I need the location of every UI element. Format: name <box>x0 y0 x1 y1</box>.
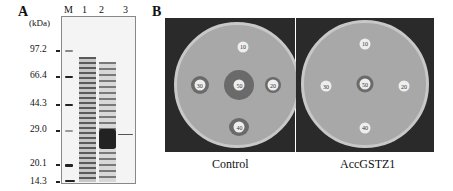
arrow-icon <box>56 164 60 166</box>
arrow-icon <box>56 181 60 183</box>
disc-50: 50 <box>360 79 371 90</box>
petri-dish-accgstz1: 10 30 50 20 40 <box>301 20 429 148</box>
arrow-icon <box>56 76 60 78</box>
disc-50: 50 <box>234 80 245 91</box>
arrow-icon <box>56 130 60 132</box>
disc-20: 20 <box>268 80 279 91</box>
lane-label-2: 2 <box>99 4 104 15</box>
marker-14: 14.3 <box>30 176 47 186</box>
lane-label-m: M <box>64 4 73 15</box>
marker-20: 20.1 <box>30 158 47 168</box>
disc-20: 20 <box>399 81 410 92</box>
sds-page-gel <box>61 16 136 184</box>
disc-10: 10 <box>360 38 371 49</box>
disc-30: 30 <box>194 80 205 91</box>
disc-30: 30 <box>320 81 331 92</box>
lane-label-3: 3 <box>123 4 128 15</box>
marker-44: 44.3 <box>30 98 47 108</box>
marker-97: 97.2 <box>30 44 47 54</box>
arrow-icon <box>56 50 60 52</box>
petri-dish-control: 10 30 50 20 40 <box>174 22 300 148</box>
disc-10: 10 <box>238 41 249 52</box>
arrow-icon <box>56 104 60 106</box>
marker-66: 66.4 <box>30 70 47 80</box>
caption-control: Control <box>212 157 249 172</box>
control-plate-photo: 10 30 50 20 40 <box>165 18 295 152</box>
lane-label-1: 1 <box>82 4 87 15</box>
kda-unit-label: (kDa) <box>29 18 50 28</box>
disc-40: 40 <box>234 122 245 133</box>
accgstz1-plate-photo: 10 30 50 20 40 <box>296 18 434 152</box>
disc-40: 40 <box>360 122 371 133</box>
panel-a-label: A <box>18 4 28 20</box>
panel-b-label: B <box>152 4 161 20</box>
marker-29: 29.0 <box>30 124 47 134</box>
caption-accgstz1: AccGSTZ1 <box>340 157 395 172</box>
